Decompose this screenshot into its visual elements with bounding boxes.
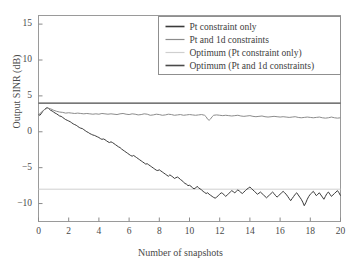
y-tick-label: 15	[2, 18, 32, 28]
x-tick-label: 2	[56, 226, 82, 236]
data-series-layer	[39, 103, 341, 206]
legend-label: Pt and 1d constraints	[190, 35, 270, 45]
x-tick-label: 14	[237, 226, 263, 236]
legend-label: Optimum (Pt and 1d constraints)	[190, 61, 315, 72]
x-tick-label: 6	[116, 226, 142, 236]
chart-figure: Pt constraint onlyPt and 1d constraintsO…	[0, 0, 361, 271]
x-tick-label: 16	[267, 226, 293, 236]
series-line	[39, 108, 341, 206]
x-tick-label: 12	[207, 226, 233, 236]
x-tick-label: 0	[26, 226, 52, 236]
legend-label: Pt constraint only	[190, 22, 257, 32]
x-tick-label: 4	[86, 226, 112, 236]
legend-label: Optimum (Pt constraint only)	[190, 48, 302, 59]
y-axis-title: Output SINR (dB)	[11, 32, 22, 152]
x-axis-title: Number of snapshots	[0, 247, 361, 258]
x-tick-label: 18	[297, 226, 323, 236]
y-tick-label: −5	[2, 162, 32, 172]
x-tick-label: 10	[177, 226, 203, 236]
series-line	[39, 108, 341, 120]
y-tick-label: −10	[2, 198, 32, 208]
x-tick-label: 20	[328, 226, 354, 236]
x-tick-label: 8	[146, 226, 172, 236]
x-axis-ticks	[39, 218, 341, 222]
chart-legend: Pt constraint onlyPt and 1d constraintsO…	[159, 17, 341, 75]
